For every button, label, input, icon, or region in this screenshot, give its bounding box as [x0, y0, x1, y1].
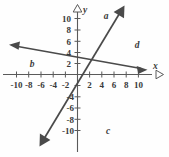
y-tick-label--6: -6	[67, 103, 75, 113]
annotation-label-b: b	[30, 59, 35, 69]
graph-canvas: -10 -8 -6 -4 -2 2 4 6 8 10 10 8 6 4 2 -4…	[0, 0, 169, 157]
x-tick-label--4: -4	[49, 80, 57, 90]
x-axis-arrowhead-icon	[156, 70, 164, 79]
y-axis-label: y	[82, 5, 88, 15]
x-tick-label-8: 8	[124, 80, 129, 90]
annotations-group: a b c d	[30, 11, 140, 136]
y-tick-label--8: -8	[67, 115, 75, 125]
coordinate-plane-figure: -10 -8 -6 -4 -2 2 4 6 8 10 10 8 6 4 2 -4…	[0, 0, 169, 157]
x-tick-label-6: 6	[112, 80, 117, 90]
y-tick-label-2: 2	[67, 59, 72, 69]
steep-line-upper-arrowhead-icon	[114, 6, 125, 19]
y-tick-label--10: -10	[62, 126, 74, 136]
x-tick-label--10: -10	[11, 80, 23, 90]
x-tick-label-10: 10	[134, 80, 144, 90]
x-tick-label--8: -8	[25, 80, 33, 90]
axes-group	[3, 5, 164, 153]
x-tick-label-4: 4	[100, 80, 105, 90]
y-axis-arrowhead-icon	[73, 5, 82, 13]
x-tick-label--6: -6	[37, 80, 45, 90]
x-axis-label: x	[152, 61, 158, 71]
y-tick-label-4: 4	[67, 48, 72, 58]
data-lines-group	[9, 6, 148, 147]
annotation-label-c: c	[106, 126, 111, 136]
steep-increasing-line	[45, 14, 120, 139]
y-tick-label-6: 6	[67, 37, 72, 47]
shallow-line-left-arrowhead-icon	[9, 42, 20, 50]
shallow-line-right-arrowhead-icon	[137, 66, 148, 74]
x-tick-label--2: -2	[62, 80, 70, 90]
x-tick-label-2: 2	[87, 80, 92, 90]
y-tick-label-10: 10	[62, 14, 72, 24]
y-tick-label-8: 8	[67, 25, 72, 35]
y-tick-label--4: -4	[67, 92, 75, 102]
steep-line-lower-arrowhead-icon	[40, 134, 51, 147]
annotation-label-a: a	[104, 11, 109, 21]
annotation-label-d: d	[135, 40, 140, 50]
